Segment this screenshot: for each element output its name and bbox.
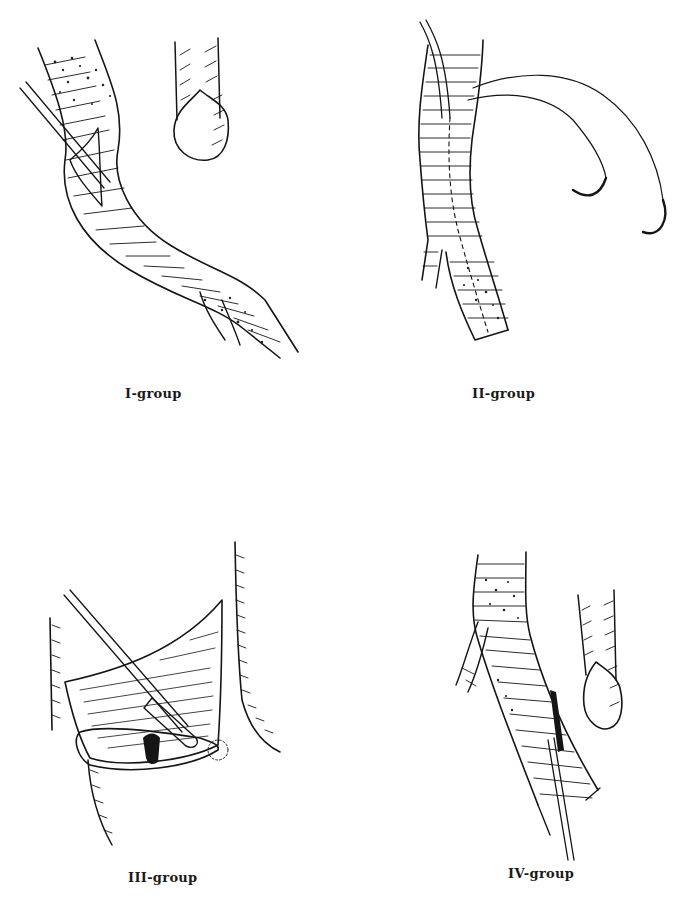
panel-iii-caption: III-group xyxy=(128,870,198,885)
panel-iv-illustration xyxy=(338,500,676,860)
panel-i: I-group xyxy=(0,0,338,410)
panel-ii-illustration xyxy=(338,0,676,380)
panel-i-illustration xyxy=(0,0,338,380)
panel-iii: III-group xyxy=(0,500,338,914)
panel-iii-illustration xyxy=(0,500,338,860)
panel-iv-caption: IV-group xyxy=(508,866,574,881)
panel-ii: II-group xyxy=(338,0,676,410)
panel-i-caption: I-group xyxy=(125,386,182,401)
panel-ii-caption: II-group xyxy=(472,386,535,401)
panel-iv: IV-group xyxy=(338,500,676,914)
